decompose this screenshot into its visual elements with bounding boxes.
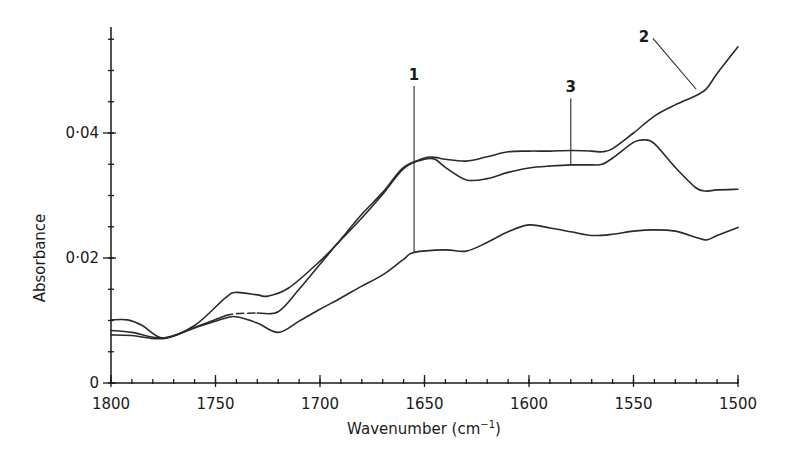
absorbance-spectrum-chart: 00·020·04 1800175017001650160015501500 A… [0, 0, 792, 455]
series-group [111, 47, 738, 339]
x-axis-title-close: ) [495, 420, 501, 438]
spectrum-curve-1 [111, 225, 738, 339]
curve-label-1: 1 [409, 66, 419, 84]
y-axis-ticks: 00·020·04 [66, 39, 116, 392]
y-tick-label: 0·02 [66, 249, 99, 267]
x-axis-ticks: 1800175017001650160015501500 [92, 375, 757, 413]
y-axis-title: Absorbance [31, 214, 49, 303]
x-tick-label: 1500 [719, 395, 757, 413]
axes: 00·020·04 1800175017001650160015501500 [66, 27, 758, 413]
x-axis-title: Wavenumber (cm−1) [347, 419, 501, 438]
x-tick-label: 1700 [301, 395, 339, 413]
curve-labels: 123 [409, 28, 696, 251]
x-tick-label: 1550 [614, 395, 652, 413]
curve-label-2: 2 [639, 28, 649, 46]
x-tick-label: 1600 [510, 395, 548, 413]
y-tick-label: 0 [89, 374, 99, 392]
x-axis-title-superscript: −1 [480, 419, 495, 430]
x-tick-label: 1800 [92, 395, 130, 413]
y-tick-label: 0·04 [66, 124, 99, 142]
spectrum-curve-3 [257, 140, 738, 314]
leader-line-2 [653, 38, 696, 89]
spectrum-curve-2 [111, 47, 738, 338]
spectrum-curve-3-dashed [226, 313, 257, 316]
x-axis-title-base: Wavenumber (cm [347, 420, 480, 438]
x-tick-label: 1650 [405, 395, 443, 413]
x-tick-label: 1750 [196, 395, 234, 413]
curve-label-3: 3 [566, 78, 576, 96]
